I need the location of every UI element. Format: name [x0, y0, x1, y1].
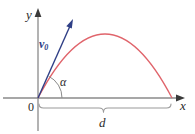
initial-velocity-subscript: 0 — [44, 43, 48, 52]
velocity-vector-arrowhead-icon — [66, 19, 73, 29]
range-brace — [39, 104, 171, 112]
trajectory-curve — [38, 34, 172, 98]
initial-velocity-label: v0 — [39, 38, 48, 50]
y-axis — [35, 8, 42, 131]
range-brace-right — [104, 104, 172, 112]
x-axis-label: x — [180, 99, 186, 112]
launch-angle-label: α — [60, 76, 66, 88]
y-axis-arrowhead-icon — [35, 8, 42, 17]
range-brace-left — [39, 104, 104, 112]
range-distance-label: d — [99, 116, 106, 129]
velocity-vector — [38, 19, 73, 98]
y-axis-label: y — [26, 8, 32, 21]
origin-label: 0 — [28, 101, 34, 113]
projectile-motion-figure: y x 0 α d v0 — [0, 0, 195, 134]
